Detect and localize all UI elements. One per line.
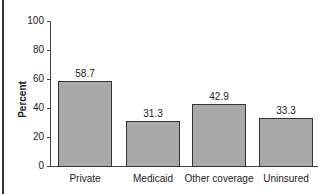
y-tick: [47, 108, 51, 109]
left-border: [2, 0, 4, 194]
bar-private: [58, 81, 112, 167]
y-tick-label: 20: [16, 131, 44, 142]
value-label: 58.7: [55, 68, 115, 79]
y-tick: [47, 50, 51, 51]
value-label: 42.9: [189, 91, 249, 102]
y-tick-label: 40: [16, 102, 44, 113]
y-tick-label: 60: [16, 73, 44, 84]
y-tick: [47, 21, 51, 22]
y-tick-label: 0: [16, 160, 44, 171]
y-tick: [47, 79, 51, 80]
bar-medicaid: [126, 121, 180, 167]
bar-uninsured: [259, 118, 313, 167]
bar-other-coverage: [192, 104, 246, 167]
category-label: Uninsured: [246, 173, 326, 184]
y-tick: [47, 137, 51, 138]
y-tick-label: 100: [16, 15, 44, 26]
y-tick: [47, 166, 51, 167]
value-label: 31.3: [123, 108, 183, 119]
value-label: 33.3: [256, 105, 316, 116]
y-tick-label: 80: [16, 44, 44, 55]
y-axis: [50, 21, 51, 166]
